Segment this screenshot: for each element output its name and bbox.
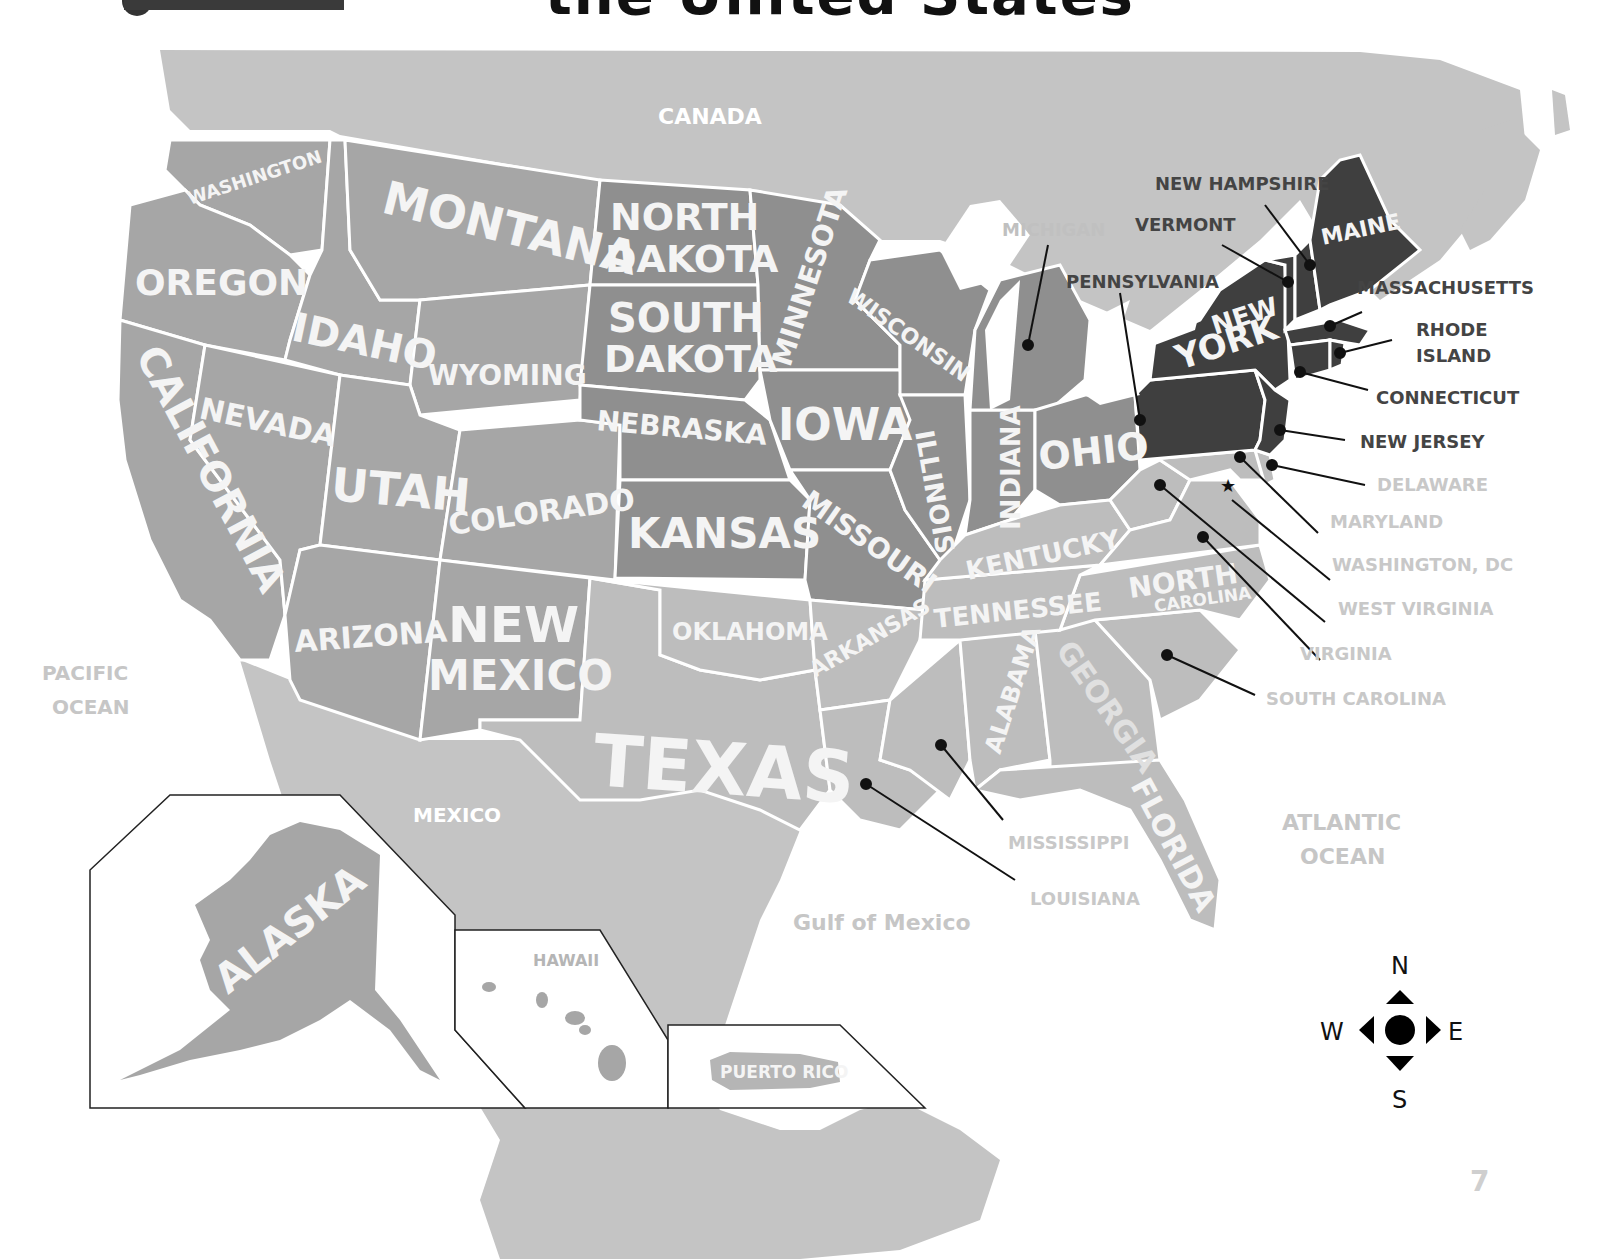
maritimes-island	[1552, 90, 1570, 135]
washington-dc-star-icon: ★	[1220, 475, 1236, 496]
label-wyoming: WYOMING	[428, 359, 587, 392]
label-gulf-of-mexico: Gulf of Mexico	[793, 910, 971, 935]
label-oregon: OREGON	[135, 262, 308, 303]
label-south-dakota-2: DAKOTA	[604, 337, 778, 381]
callout-rhode-island-1: RHODE	[1416, 319, 1487, 340]
callout-delaware: DELAWARE	[1377, 474, 1488, 495]
label-south-dakota-1: SOUTH	[608, 295, 764, 341]
callout-michigan: MICHIGAN	[1002, 219, 1105, 240]
compass-south-arrow-icon	[1386, 1056, 1414, 1071]
compass-east-arrow-icon	[1426, 1016, 1441, 1044]
compass-center-icon	[1385, 1015, 1415, 1045]
label-north-dakota-2: DAKOTA	[605, 237, 779, 281]
callout-louisiana: LOUISIANA	[1030, 888, 1140, 909]
callout-connecticut: CONNECTICUT	[1376, 387, 1520, 408]
compass-north-arrow-icon	[1386, 990, 1414, 1004]
callout-west-virginia: WEST VIRGINIA	[1338, 598, 1493, 619]
label-atlantic-ocean-1: ATLANTIC	[1282, 810, 1401, 835]
compass-rose: N S W E	[1320, 952, 1463, 1114]
label-indiana: INDIANA	[996, 405, 1026, 530]
callout-rhode-island-2: ISLAND	[1416, 345, 1491, 366]
callout-new-hampshire: NEW HAMPSHIRE	[1155, 173, 1329, 194]
label-new-mexico-1: NEW	[448, 596, 579, 654]
callout-virginia: VIRGINIA	[1300, 643, 1392, 664]
callout-south-carolina: SOUTH CAROLINA	[1266, 688, 1446, 709]
label-puerto-rico: PUERTO RICO	[720, 1062, 849, 1082]
compass-west-arrow-icon	[1359, 1016, 1374, 1044]
us-map: CANADA MEXICO PACIFIC OCEAN ATLANTIC OCE…	[0, 0, 1621, 1259]
page-number: 7	[1470, 1165, 1489, 1198]
state-pennsylvania	[1135, 370, 1265, 460]
callout-new-jersey: NEW JERSEY	[1360, 431, 1486, 452]
callout-pennsylvania: PENNSYLVANIA	[1066, 271, 1219, 292]
callout-vermont: VERMONT	[1135, 214, 1236, 235]
compass-label-south: S	[1392, 1086, 1407, 1114]
label-atlantic-ocean-2: OCEAN	[1300, 844, 1385, 869]
label-iowa: IOWA	[778, 399, 912, 450]
callout-maryland: MARYLAND	[1330, 511, 1443, 532]
label-north-dakota-1: NORTH	[610, 195, 759, 239]
callout-massachusetts: MASSACHUSETTS	[1357, 277, 1534, 298]
callout-washington-dc: WASHINGTON, DC	[1332, 554, 1513, 575]
callout-mississippi: MISSISSIPPI	[1008, 832, 1129, 853]
label-new-mexico-2: MEXICO	[428, 651, 613, 700]
compass-label-west: W	[1320, 1018, 1344, 1046]
label-kansas: KANSAS	[628, 509, 821, 558]
label-mexico: MEXICO	[413, 803, 501, 827]
label-canada: CANADA	[658, 104, 762, 129]
label-hawaii: HAWAII	[533, 951, 599, 970]
label-oklahoma: OKLAHOMA	[672, 618, 828, 646]
compass-label-east: E	[1448, 1018, 1463, 1046]
label-pacific-ocean-1: PACIFIC	[42, 661, 128, 685]
label-pacific-ocean-2: OCEAN	[52, 695, 130, 719]
compass-label-north: N	[1391, 952, 1409, 980]
